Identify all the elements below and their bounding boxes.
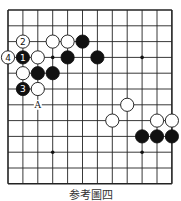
white-stone: 4: [1, 51, 14, 64]
white-stone: [106, 114, 119, 127]
white-stone: [121, 98, 134, 111]
white-stone: [46, 35, 59, 48]
black-stone: [136, 130, 149, 143]
black-stone: [31, 67, 44, 80]
black-stone: [150, 130, 163, 143]
white-stone: [31, 82, 44, 95]
svg-text:A: A: [34, 100, 42, 110]
board-grid: [8, 10, 172, 184]
move-number: 3: [20, 84, 26, 94]
white-stone: [31, 51, 44, 64]
black-stone: [165, 130, 178, 143]
white-stone: [16, 67, 29, 80]
black-stone: [46, 67, 59, 80]
point-label: A: [34, 100, 42, 110]
star-point: [51, 150, 55, 154]
black-stone: 1: [16, 51, 29, 64]
white-stone: [61, 35, 74, 48]
go-board: 2413 A: [0, 0, 181, 190]
black-stone: [61, 51, 74, 64]
black-stone: 3: [16, 82, 29, 95]
white-stone: 2: [16, 35, 29, 48]
board-marks: A: [34, 100, 42, 110]
move-number: 2: [20, 37, 26, 47]
star-point: [140, 150, 144, 154]
move-number: 4: [5, 53, 11, 63]
black-stone: [76, 35, 89, 48]
white-stone: [150, 114, 163, 127]
star-point: [51, 56, 55, 60]
move-number: 1: [20, 53, 26, 63]
diagram-caption: 参考圖四: [0, 190, 181, 201]
star-point: [140, 56, 144, 60]
white-stone: [165, 114, 178, 127]
black-stone: [91, 51, 104, 64]
